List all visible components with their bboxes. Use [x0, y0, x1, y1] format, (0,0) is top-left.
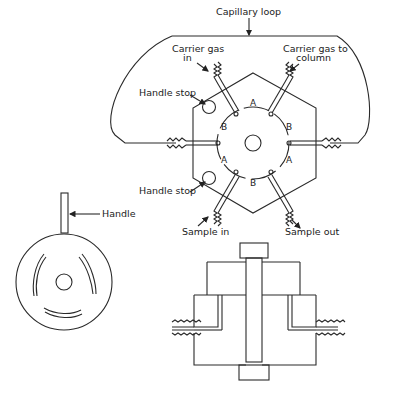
- flow-label-bottom: B: [250, 178, 256, 188]
- label-carrier-out-2: column: [296, 52, 331, 63]
- label-carrier-in-1: Carrier gas: [172, 43, 224, 54]
- label-sample-out: Sample out: [285, 226, 339, 237]
- label-capillary-loop: Capillary loop: [216, 6, 281, 17]
- label-handle-stop-bottom: Handle stop: [139, 185, 196, 196]
- valve-body-hexagon: [193, 73, 316, 213]
- label-handle-stop-top: Handle stop: [139, 87, 196, 98]
- flow-label-lower-right: A: [286, 155, 293, 165]
- label-handle: Handle: [102, 208, 136, 219]
- rotor-disc-view: [16, 193, 112, 330]
- label-sample-in: Sample in: [182, 226, 229, 237]
- flow-label-lower-left: A: [221, 155, 228, 165]
- flow-label-upper-left: B: [221, 122, 227, 132]
- center-hub-icon: [245, 135, 261, 151]
- label-carrier-in-2: in: [183, 52, 192, 63]
- rotor-circle: [217, 107, 289, 179]
- cross-section-view: [172, 243, 345, 380]
- handle-bar: [61, 193, 68, 233]
- handle-stop-top-icon: [203, 101, 216, 114]
- flow-label-upper-right: B: [286, 122, 292, 132]
- valve-diagram: A B B A A B Capillary loop Carrier gas i…: [0, 0, 394, 397]
- port-holes: [216, 112, 291, 174]
- flow-label-top: A: [250, 98, 257, 108]
